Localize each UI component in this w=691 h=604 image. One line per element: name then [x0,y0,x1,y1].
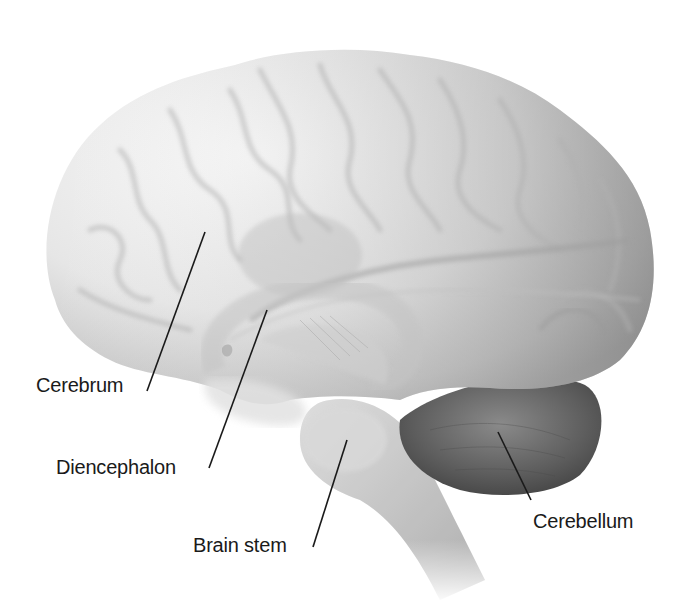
brain-diagram: Cerebrum Diencephalon Brain stem Cerebel… [0,0,691,604]
diencephalon-label: Diencephalon [56,455,176,479]
brain-stem-label: Brain stem [193,533,287,557]
cerebrum-label: Cerebrum [36,373,123,397]
cerebellum-label: Cerebellum [533,509,633,533]
